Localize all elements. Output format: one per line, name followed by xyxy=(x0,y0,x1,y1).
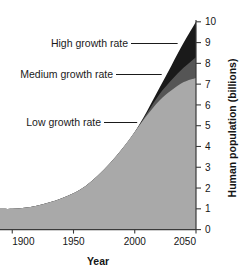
y-tick-label: 1 xyxy=(205,203,211,214)
y-axis-ticks-group: 012345678910 xyxy=(196,16,217,235)
x-axis-ticks-group: 1900195020002050 xyxy=(12,230,196,247)
y-axis-title: Human population (billions) xyxy=(226,59,238,198)
y-tick-label: 9 xyxy=(205,37,211,48)
y-tick-label: 5 xyxy=(205,120,211,131)
y-tick-label: 4 xyxy=(205,141,211,152)
annotation-low-growth-rate: Low growth rate xyxy=(26,116,101,128)
x-tick-label: 1900 xyxy=(12,236,35,247)
x-axis-title: Year xyxy=(87,255,109,267)
y-tick-label: 8 xyxy=(205,58,211,69)
population-growth-chart-figure: 012345678910 1900195020002050 High growt… xyxy=(0,0,244,273)
x-tick-label: 2000 xyxy=(124,236,147,247)
y-tick-label: 7 xyxy=(205,79,211,90)
y-tick-label: 6 xyxy=(205,100,211,111)
annotation-medium-growth-rate: Medium growth rate xyxy=(20,68,113,80)
x-tick-label: 1950 xyxy=(62,236,85,247)
y-tick-label: 10 xyxy=(205,16,217,27)
y-tick-label: 3 xyxy=(205,162,211,173)
y-tick-label: 2 xyxy=(205,183,211,194)
x-tick-label: 2050 xyxy=(174,236,197,247)
chart-canvas: 012345678910 1900195020002050 High growt… xyxy=(0,0,244,273)
y-tick-label: 0 xyxy=(205,224,211,235)
annotation-high-growth-rate: High growth rate xyxy=(51,37,128,49)
